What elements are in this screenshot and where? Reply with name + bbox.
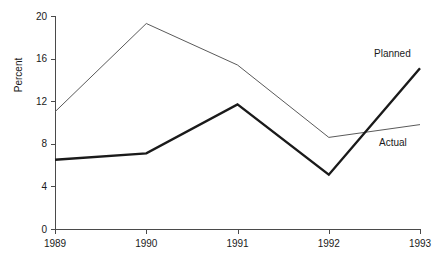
y-tick-label: 0 xyxy=(41,224,47,235)
x-tick-label: 1991 xyxy=(226,238,249,249)
x-tick-label: 1989 xyxy=(44,238,67,249)
x-tick-label: 1990 xyxy=(135,238,158,249)
y-axis-title: Percent xyxy=(13,58,24,93)
x-tick-label: 1993 xyxy=(409,238,432,249)
series-labels: Planned Actual xyxy=(374,48,411,148)
series-group xyxy=(55,24,420,175)
series-line-planned xyxy=(55,68,420,175)
series-label-actual: Actual xyxy=(379,137,407,148)
x-tick-label: 1992 xyxy=(318,238,341,249)
y-tick-label: 20 xyxy=(36,11,48,22)
x-axis: 19891990199119921993 xyxy=(44,229,432,249)
y-tick-label: 12 xyxy=(36,96,48,107)
y-axis-tick-labels: 048121620 xyxy=(36,11,48,235)
series-line-actual xyxy=(55,24,420,138)
y-axis-ticks xyxy=(51,17,55,230)
y-axis: 048121620 Percent xyxy=(13,11,56,235)
y-tick-label: 8 xyxy=(41,138,47,149)
line-chart: 048121620 Percent 19891990199119921993 P… xyxy=(0,0,439,267)
y-tick-label: 4 xyxy=(41,181,47,192)
x-axis-tick-labels: 19891990199119921993 xyxy=(44,238,432,249)
chart-canvas: 048121620 Percent 19891990199119921993 P… xyxy=(0,0,439,267)
series-label-planned: Planned xyxy=(374,48,411,59)
y-tick-label: 16 xyxy=(36,53,48,64)
